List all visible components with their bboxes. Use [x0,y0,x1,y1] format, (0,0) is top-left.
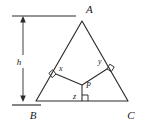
geometry-figure: A B C P x y z h [0,0,148,122]
dimension-label-h: h [17,57,22,67]
segment-label-y: y [97,57,102,66]
vertex-label-c: C [127,109,135,121]
vertex-label-a: A [85,3,93,15]
vertex-label-b: B [30,109,37,121]
dimension-arrowhead-up [20,16,26,23]
point-label-p: P [85,81,91,90]
figure-canvas: A B C P x y z h [0,0,148,122]
right-angle-mark-z [82,95,88,101]
segment-label-x: x [58,64,63,73]
segment-x [56,74,82,85]
segment-label-z: z [72,92,77,101]
dimension-arrowhead-down [20,96,26,103]
